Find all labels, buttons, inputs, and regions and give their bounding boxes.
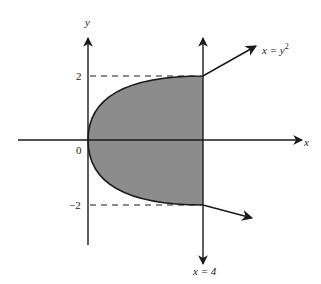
line-x-equals-4-label: x = 4	[192, 265, 217, 277]
y-axis-label: y	[84, 16, 90, 28]
region-diagram: y x 0 2 −2 x = y2 x = 4	[0, 0, 321, 284]
parabola-label: x = y2	[261, 42, 289, 56]
tick-label-neg2: −2	[69, 199, 81, 211]
tick-label-2: 2	[76, 70, 82, 82]
origin-label: 0	[76, 144, 82, 156]
parabola-label-exponent: 2	[285, 42, 289, 51]
line-label-text: x = 4	[192, 265, 217, 277]
x-axis-label: x	[303, 136, 309, 148]
parabola-label-main: x = y	[261, 44, 285, 56]
